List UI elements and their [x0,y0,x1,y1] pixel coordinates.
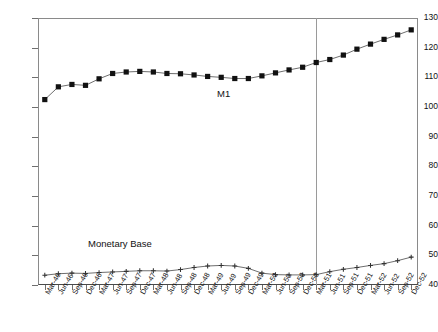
y-tick-label: 100 [408,102,438,111]
y-tick-label: 80 [408,161,438,170]
y-tick-label: 70 [408,191,438,200]
y-tick-mark [32,285,38,286]
vertical-reference-mar-51 [316,18,317,285]
y-tick-mark [32,137,38,138]
y-tick-mark [32,107,38,108]
y-tick-label: 120 [408,43,438,52]
y-tick-mark [32,196,38,197]
y-tick-label: 110 [408,72,438,81]
chart-figure: 130120110100908070605040 Mar-46Jun-46Sep… [0,0,438,332]
y-tick-mark [32,18,38,19]
m1-label: M1 [217,88,230,99]
y-tick-mark [32,226,38,227]
y-tick-mark [32,166,38,167]
y-tick-mark [32,255,38,256]
y-tick-mark [32,48,38,49]
y-tick-label: 130 [408,13,438,22]
y-tick-label: 50 [408,250,438,259]
monetary-base-label: Monetary Base [88,238,152,249]
y-tick-label: 60 [408,221,438,230]
y-tick-label: 90 [408,132,438,141]
y-tick-mark [32,77,38,78]
